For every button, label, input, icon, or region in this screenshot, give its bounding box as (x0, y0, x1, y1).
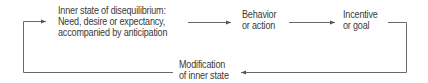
node-inner-state: Inner state of disequilibrium: Need, des… (58, 5, 167, 38)
node-incentive-line-2: or goal (343, 20, 378, 31)
node-modification: Modification of inner state (179, 59, 229, 81)
node-incentive: Incentive or goal (343, 9, 378, 31)
node-behavior: Behavior or action (242, 9, 276, 31)
arrow-modification-to-inner-state (24, 22, 47, 73)
node-behavior-line-2: or action (242, 20, 276, 31)
node-inner-state-line-3: accompanied by anticipation (58, 27, 167, 38)
node-modification-line-2: of inner state (179, 70, 229, 81)
